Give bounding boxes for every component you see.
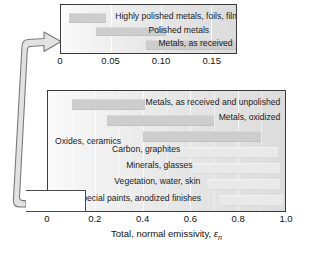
bar-label-metals-oxidized: Metals, oxidized [219,113,281,122]
main-x-axis-ticks: 0 0.2 0.4 0.6 0.8 1.0 [47,214,286,228]
main-tick-10: 1.0 [279,214,292,224]
bar-label-metals-as-received-and-unpolished: Metals, as received and unpolished [146,98,281,107]
bar-label-vegetation-water-skin: Vegetation, water, skin [114,177,200,186]
inset-tick-005: 0.05 [101,56,120,66]
main-tick-06: 0.6 [184,214,197,224]
inset-x-axis-ticks: 0 0.05 0.10 0.15 [60,56,237,70]
main-tick-02: 0.2 [88,214,101,224]
x-axis-title: Total, normal emissivity, εn [47,228,286,241]
bar-label-polished-metals: Polished metals [149,26,210,35]
bar-label-minerals-glasses: Minerals, glasses [126,161,192,170]
bar-oxides-ceramics [143,131,262,142]
x-axis-title-text: Total, normal emissivity, [111,228,214,239]
bar-metals-oxidized [107,115,214,126]
inset-tick-015: 0.15 [202,56,221,66]
bar-special-paints-anodized-finishes [219,195,283,206]
main-tick-04: 0.4 [136,214,149,224]
bar-highly-polished-metals [69,13,106,23]
emissivity-figure: Highly polished metals, foils, films Pol… [0,0,309,255]
bar-minerals-glasses [190,163,280,174]
main-tick-0: 0 [44,214,49,224]
magnified-source-region [26,190,86,212]
inset-chart-panel: Highly polished metals, foils, films Pol… [60,4,237,54]
bar-metals-as-received-and-unpolished [72,99,145,110]
epsilon-subscript: n [218,234,222,241]
bar-label-special-paints-anodized-finishes: Special paints, anodized finishes [76,194,201,203]
bar-vegetation-water-skin [207,179,280,190]
bar-label-highly-polished-metals: Highly polished metals, foils, films [115,12,237,21]
inset-plot-area: Highly polished metals, foils, films Pol… [61,5,236,53]
main-tick-08: 0.8 [232,214,245,224]
bar-label-metals-as-received: Metals, as received [158,39,232,48]
inset-tick-010: 0.10 [152,56,171,66]
bar-label-carbon-graphites: Carbon, graphites [112,145,180,154]
bar-carbon-graphites [176,147,278,158]
inset-tick-0: 0 [57,56,62,66]
